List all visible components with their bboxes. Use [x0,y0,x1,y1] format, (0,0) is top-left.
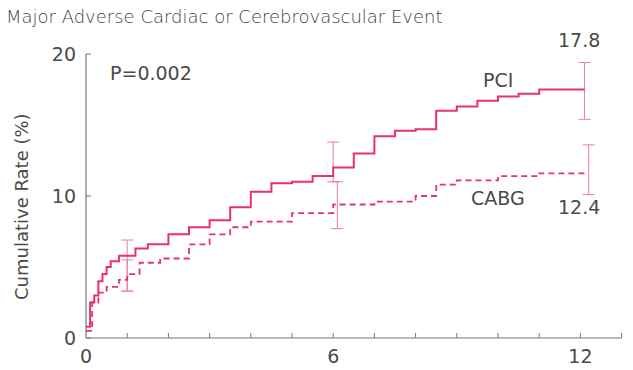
pci-end-value: 17.8 [558,29,600,51]
y-tick-label: 10 [52,185,76,207]
chart-plot: 010200612 Cumulative Rate (%) P=0.002 PC… [0,0,633,370]
y-axis-label: Cumulative Rate (%) [11,113,32,300]
y-tick-label: 20 [52,43,76,65]
y-tick-label: 0 [64,327,76,349]
x-tick-label: 6 [327,345,339,367]
x-tick-label: 12 [568,345,592,367]
series-label-cabg: CABG [471,187,525,209]
series-label-pci: PCI [483,69,513,91]
series-lines [86,90,585,331]
p-value-annotation: P=0.002 [110,62,192,84]
cabg-end-value: 12.4 [558,196,600,218]
axes: 010200612 [52,43,622,367]
x-tick-label: 0 [80,345,92,367]
